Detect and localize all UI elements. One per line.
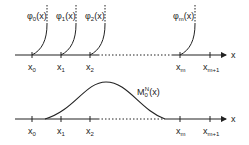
bottom-tick-x2: x2	[86, 126, 95, 137]
top-tick-x1: x1	[57, 62, 66, 73]
bell-curve-label: M0N(x)	[137, 86, 160, 98]
bottom-tick-x0: x0	[28, 126, 37, 137]
phi-2-label: φ2(x)	[85, 11, 105, 22]
top-tick-xm1: xm+1	[203, 62, 220, 73]
top-pointer-curves	[32, 24, 195, 55]
bottom-tick-xm1: xm+1	[203, 126, 220, 137]
basis-function-diagram: x x0 x1 x2 xm xm+1 φ0(x)	[0, 0, 249, 145]
top-panel: x x0 x1 x2 xm xm+1 φ0(x)	[15, 5, 236, 73]
phi-1-label: φ1(x)	[56, 11, 76, 22]
bottom-tick-x1: x1	[57, 126, 66, 137]
top-tick-xm: xm	[176, 62, 186, 73]
phi-0-label: φ0(x)	[27, 11, 47, 22]
top-tick-x0: x0	[28, 62, 37, 73]
phi-m-label: φm(x)	[173, 11, 194, 22]
top-tick-x2: x2	[86, 62, 95, 73]
bottom-panel: x x0 x1 x2 xm xm+1 M0N(x)	[15, 82, 236, 137]
top-axis-label: x	[231, 50, 236, 60]
bottom-tick-xm: xm	[176, 126, 186, 137]
bottom-axis-label: x	[231, 114, 236, 124]
